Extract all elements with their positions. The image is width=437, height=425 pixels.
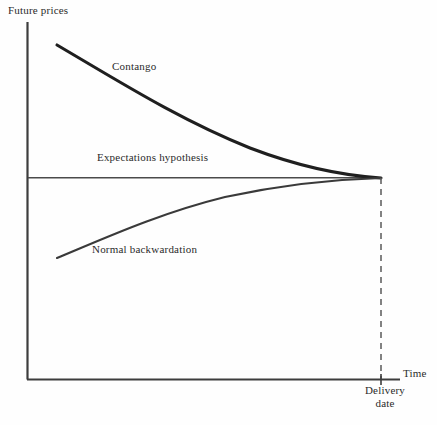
expectations-hypothesis-label: Expectations hypothesis (97, 151, 208, 163)
contango-label: Contango (112, 60, 156, 72)
chart-figure: Future prices Time Contango Expectations… (0, 0, 437, 425)
x-axis-label: Time (403, 367, 427, 379)
delivery-date-line-2: date (355, 397, 415, 410)
futures-price-convergence-chart (0, 0, 437, 425)
delivery-date-tick-label: Delivery date (355, 384, 415, 410)
delivery-date-line-1: Delivery (365, 384, 405, 396)
normal-backwardation-label: Normal backwardation (92, 243, 197, 255)
y-axis-label: Future prices (8, 4, 68, 16)
